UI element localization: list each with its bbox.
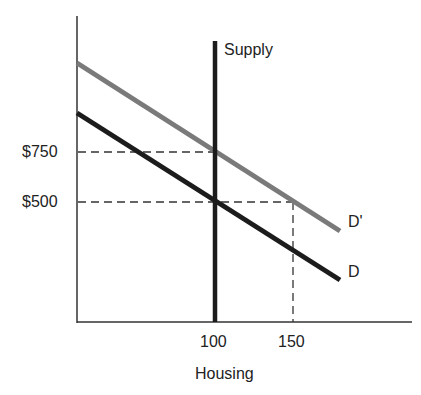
x-tick-150: 150 [278, 333, 305, 351]
supply-label: Supply [224, 41, 273, 59]
d-curve [77, 113, 340, 280]
y-tick-500: $500 [22, 193, 58, 211]
y-tick-750: $750 [22, 143, 58, 161]
x-tick-100: 100 [200, 333, 227, 351]
d-prime-curve [77, 63, 340, 231]
x-axis-label: Housing [195, 365, 254, 383]
d-prime-label: D' [348, 213, 363, 231]
d-label: D [348, 263, 360, 281]
